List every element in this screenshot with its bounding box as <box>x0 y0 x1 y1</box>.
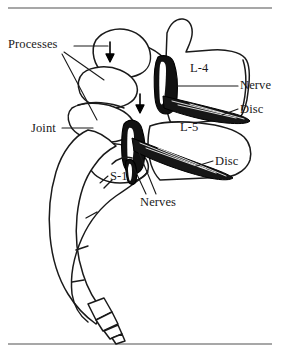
label-disc-upper: Disc <box>240 103 263 116</box>
label-l5-vertebra: L-5 <box>180 121 198 134</box>
label-processes: Processes <box>8 38 58 51</box>
spine-illustration <box>0 0 281 354</box>
label-l4-vertebra: L-4 <box>190 62 208 75</box>
compression-arrow-lower <box>136 94 144 113</box>
label-joint: Joint <box>31 122 56 135</box>
label-nerve: Nerve <box>240 79 271 92</box>
label-s1-vertebra: S-1 <box>110 170 128 183</box>
label-nerves: Nerves <box>140 196 176 209</box>
anatomical-figure: Processes Joint L-4 Nerve Disc L-5 Disc … <box>0 0 281 354</box>
label-disc-lower: Disc <box>215 155 238 168</box>
